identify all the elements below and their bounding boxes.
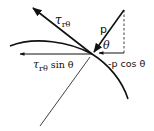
pressure-label: p — [100, 23, 107, 36]
force-diagram: τrθ p θ τrθ sin θ -p cos θ — [0, 0, 154, 131]
pressure-horizontal-label: -p cos θ — [108, 58, 145, 69]
angle-label: θ — [103, 39, 110, 52]
shear-horizontal-label: τrθ sin θ — [33, 58, 74, 73]
shear-stress-label: τrθ — [55, 13, 70, 29]
shear-stress-arrow — [33, 8, 92, 54]
